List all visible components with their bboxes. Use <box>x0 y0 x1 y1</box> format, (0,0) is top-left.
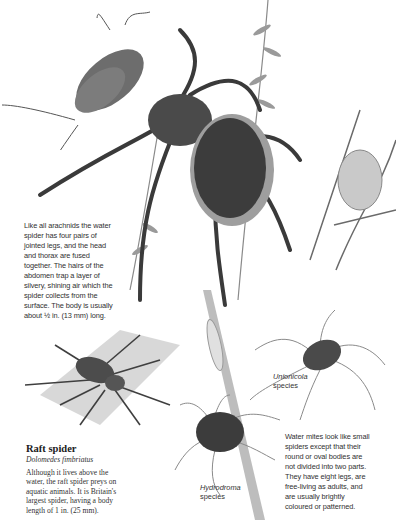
raft-spider-description: Although it lives above the water, the r… <box>26 468 138 515</box>
hydrodroma-genus: Hydrodroma <box>200 483 241 492</box>
raft-spider-latin-name: Dolomedes fimbriatus <box>26 455 138 464</box>
text-line: largest spider, having a body <box>26 496 138 505</box>
hydrodroma-caption: Hydrodroma species <box>200 483 241 501</box>
text-line: spiders except that their <box>285 442 396 452</box>
water-mites-description: Water mites look like small spiders exce… <box>285 432 396 512</box>
text-line: jointed legs, and the head <box>24 241 154 251</box>
text-line: water, the raft spider preys on <box>26 477 138 486</box>
unionicola-species-label: species <box>273 381 308 390</box>
water-spider-description: Like all arachnids the water spider has … <box>24 221 154 321</box>
diving-bell-illustration <box>300 30 396 290</box>
text-line: free-living as adults, and <box>285 482 396 492</box>
unionicola-genus: Unionicola <box>273 372 308 381</box>
text-line: round or oval bodies are <box>285 452 396 462</box>
text-line: not divided into two parts. <box>285 462 396 472</box>
unionicola-caption: Unionicola species <box>273 372 308 390</box>
text-line: together. The hairs of the <box>24 261 154 271</box>
raft-spider-section: Raft spider Dolomedes fimbriatus Althoug… <box>26 443 138 515</box>
text-line: surface. The body is usually <box>24 301 154 311</box>
raft-spider-title: Raft spider <box>26 443 138 454</box>
text-line: They have eight legs, are <box>285 472 396 482</box>
text-line: are usually brightly <box>285 492 396 502</box>
text-line: Like all arachnids the water <box>24 221 154 231</box>
text-line: spider has four pairs of <box>24 231 154 241</box>
text-line: about ½ in. (13 mm) long. <box>24 311 154 321</box>
text-line: spider collects from the <box>24 291 154 301</box>
text-line: abdomen trap a layer of <box>24 271 154 281</box>
text-line: aquatic animals. It is Britain's <box>26 487 138 496</box>
text-line: coloured or patterned. <box>285 502 396 512</box>
text-line: silvery, shining air which the <box>24 281 154 291</box>
text-line: length of 1 in. (25 mm). <box>26 506 138 515</box>
text-line: Water mites look like small <box>285 432 396 442</box>
text-line: and thorax are fused <box>24 251 154 261</box>
text-line: Although it lives above the <box>26 468 138 477</box>
hydrodroma-species-label: species <box>200 492 241 501</box>
